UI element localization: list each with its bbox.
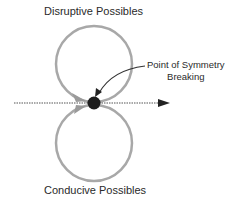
disruptive-possibles-label: Disruptive Possibles	[44, 5, 143, 17]
disruptive-possibles-circle	[56, 26, 132, 102]
diagram-canvas	[0, 0, 231, 210]
symmetry-callout-label: Point of Symmetry Breaking	[147, 59, 225, 83]
conducive-possibles-label: Conducive Possibles	[44, 184, 146, 196]
symmetry-point-dot	[88, 97, 101, 110]
axis-arrowhead-icon	[158, 99, 170, 107]
callout-line-1: Point of Symmetry	[147, 59, 225, 71]
callout-line-2: Breaking	[147, 71, 225, 83]
top-circle-arrowhead-icon	[72, 93, 86, 102]
conducive-possibles-circle	[56, 105, 132, 181]
bottom-circle-arrowhead-icon	[74, 105, 86, 114]
